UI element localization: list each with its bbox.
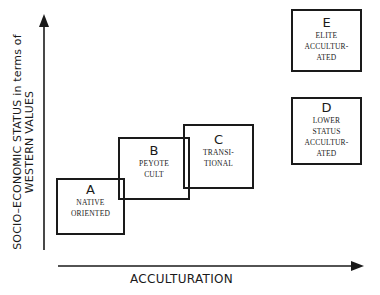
box-desc-line: STATUS xyxy=(293,126,360,137)
box-letter: E xyxy=(293,16,360,30)
box-desc-line: ATED xyxy=(293,148,360,159)
box-desc-line: CULT xyxy=(120,169,188,180)
box-desc-line: TIONAL xyxy=(185,158,252,169)
box-e-elite-acculturated: E ELITE ACCULTUR- ATED xyxy=(291,9,362,72)
box-letter: B xyxy=(120,144,188,158)
box-d-lower-status-acculturated: D LOWER STATUS ACCULTUR- ATED xyxy=(291,97,362,165)
y-axis-label: SOCIO–ECONOMIC STATUS in terms of WESTER… xyxy=(12,22,36,262)
x-axis-arrow-icon xyxy=(351,261,364,271)
box-desc-line: LOWER xyxy=(293,115,360,126)
box-letter: A xyxy=(58,183,123,197)
box-desc-line: TRANSI- xyxy=(185,147,252,158)
box-desc-line: ACCULTUR- xyxy=(293,41,360,52)
box-letter: C xyxy=(185,133,252,147)
y-axis-arrow-icon xyxy=(39,14,49,27)
box-desc-line: ORIENTED xyxy=(58,208,123,219)
box-desc-line: PEYOTE xyxy=(120,158,188,169)
box-desc-line: ATED xyxy=(293,52,360,63)
x-axis-label: ACCULTURATION xyxy=(130,272,233,286)
box-letter: D xyxy=(293,101,360,115)
y-axis-label-line2: WESTERN VALUES xyxy=(24,22,36,262)
box-desc-line: NATIVE xyxy=(58,197,123,208)
box-c-transitional: C TRANSI- TIONAL xyxy=(183,124,254,189)
box-b-peyote-cult: B PEYOTE CULT xyxy=(118,137,190,200)
box-desc-line: ACCULTUR- xyxy=(293,137,360,148)
box-desc-line: ELITE xyxy=(293,30,360,41)
box-a-native-oriented: A NATIVE ORIENTED xyxy=(56,178,125,235)
